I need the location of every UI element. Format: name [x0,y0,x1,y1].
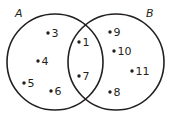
element-label: 10 [118,45,132,58]
element-label: 9 [114,26,121,39]
element-dot [108,30,111,33]
element-dot [112,49,115,52]
venn-diagram: A B 345617910118 [0,0,173,121]
element-label: 4 [42,55,49,68]
element-dot [108,90,111,93]
set-a-label: A [14,7,23,20]
element-dot [46,31,49,34]
element-label: 6 [55,85,62,98]
element-label: 5 [28,77,35,90]
element-dot [22,81,25,84]
element-dot [36,59,39,62]
element-dot [49,89,52,92]
elements-group: 345617910118 [22,26,149,99]
element-label: 11 [136,65,150,78]
element-dot [130,69,133,72]
element-label: 3 [52,27,59,40]
element-dot [77,40,80,43]
element-label: 1 [83,36,90,49]
set-b-label: B [146,7,154,20]
element-dot [77,74,80,77]
element-label: 8 [114,86,121,99]
element-label: 7 [83,70,90,83]
